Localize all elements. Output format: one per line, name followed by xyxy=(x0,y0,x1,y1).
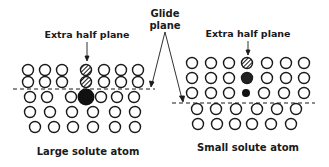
extra-half-plane-atom xyxy=(242,58,253,69)
right-extra-half-plane-label: Extra half plane xyxy=(205,28,290,39)
glide-plane-arrows xyxy=(150,32,185,102)
large-solute-atom xyxy=(78,89,95,106)
right-caption: Small solute atom xyxy=(197,142,299,153)
small-solute-atom xyxy=(242,89,250,97)
left-caption: Large solute atom xyxy=(37,146,140,157)
left-extra-half-plane-label: Extra half plane xyxy=(44,29,129,40)
right-panel-small-solute: Extra half plane Small solute atom xyxy=(172,28,315,153)
left-panel-large-solute: Extra half plane Large solute atom xyxy=(13,29,155,157)
left-extra-half-plane-arrow xyxy=(85,42,89,61)
right-extra-half-plane-arrow xyxy=(246,41,250,55)
extra-half-plane-atom xyxy=(81,65,92,76)
extra-half-plane-atom xyxy=(81,77,92,88)
glide-plane-label-line1: Glide xyxy=(150,8,179,19)
dislocation-diagram: Glide plane Extra half plane xyxy=(0,0,329,167)
extra-half-plane-atom xyxy=(242,73,253,84)
glide-plane-label-line2: plane xyxy=(149,20,180,31)
